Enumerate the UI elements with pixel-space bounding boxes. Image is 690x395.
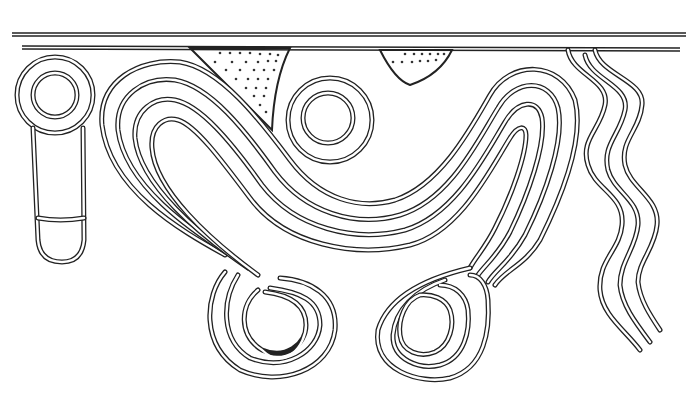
ornament-drawing (0, 0, 690, 395)
wavy-lines (568, 50, 660, 350)
dotted-triangle-right (380, 50, 452, 85)
central-ring (288, 78, 372, 162)
right-spiral-loop (377, 268, 488, 380)
left-ringed-stem (17, 57, 93, 262)
left-spiral-loop (210, 272, 335, 377)
top-border (12, 33, 686, 51)
